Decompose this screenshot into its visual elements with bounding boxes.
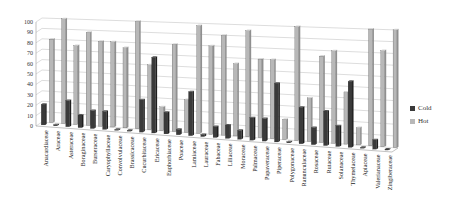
bar-hot [356, 127, 360, 144]
x-category-label: Anacardiaceae [42, 130, 49, 167]
bar-cold [41, 104, 45, 125]
bar-cold [373, 140, 377, 149]
bar-hot [221, 35, 225, 135]
x-category-label: Papaveraceae [263, 146, 270, 180]
x-category-label: Palmaceae [251, 145, 258, 172]
bar-chart: 0102030405060708090100AnacardiaceaeArace… [0, 0, 454, 217]
bar-hot [332, 51, 336, 143]
gridline [36, 18, 398, 30]
x-category-label: Brassicaceae [128, 136, 135, 168]
bar-cold [238, 130, 242, 139]
bar-hot [62, 19, 66, 124]
x-category-label: Piperaceae [275, 147, 282, 174]
bar-cold [250, 118, 254, 140]
bar-cold [213, 126, 217, 137]
x-category-label: Caryophyllaceae [104, 134, 111, 176]
y-tick-label: 60 [27, 61, 33, 67]
bar-cold [262, 119, 266, 142]
y-tick-label: 50 [27, 71, 33, 77]
bar-hot [381, 51, 385, 147]
bar-cold [189, 92, 193, 136]
bar-cold [176, 129, 180, 134]
bar-hot [393, 30, 397, 148]
bar-cold [78, 115, 82, 128]
bar-hot [246, 30, 250, 136]
y-tick-label: 80 [27, 40, 33, 46]
bar-cold [164, 112, 168, 134]
y-tick-label: 40 [27, 81, 33, 87]
bar-cold [53, 125, 57, 126]
x-category-label: Araceae [54, 131, 61, 152]
x-category-label: Euphorbiaceae [165, 139, 172, 176]
x-category-label: Solanaceae [337, 151, 344, 179]
bar-cold [115, 129, 119, 130]
bar-cold [274, 83, 278, 142]
bar-cold [66, 101, 70, 127]
bar-cold [152, 57, 156, 133]
x-category-label: Valerianaceae [374, 154, 381, 189]
bar-cold [127, 130, 131, 131]
x-category-label: Liliaceae [226, 143, 233, 166]
legend-swatch-hot [410, 119, 415, 124]
bar-hot [295, 27, 299, 141]
x-category-label: Moraceae [239, 144, 246, 169]
x-category-label: Lamiaceae [190, 141, 197, 168]
legend-label-hot: Hot [418, 117, 429, 125]
bar-hot [172, 44, 176, 131]
x-category-label: Lauraceae [202, 142, 209, 168]
x-category-label: Poaceae [177, 140, 184, 161]
x-category-label: Ranunculaceae [300, 149, 307, 187]
bar-hot [123, 48, 127, 128]
x-category-label: Burseraceae [91, 134, 98, 164]
bar-cold [336, 126, 340, 147]
bar-hot [209, 46, 213, 134]
x-category-label: Rosaceae [312, 150, 319, 174]
bar-hot [111, 42, 115, 127]
bar-hot [148, 65, 152, 130]
bar-hot [344, 92, 348, 144]
bar-hot [319, 56, 323, 142]
bar-hot [307, 98, 311, 141]
bar-hot [86, 32, 90, 125]
y-tick-label: 10 [27, 113, 33, 119]
y-tick-label: 20 [27, 102, 33, 108]
legend-item-cold: Cold [410, 104, 432, 112]
x-category-label: Zingiberaceae [386, 155, 393, 190]
bar-cold [324, 111, 328, 146]
x-category-label: Rutaceae [325, 151, 332, 174]
bar-hot [184, 100, 188, 133]
bar-hot [49, 39, 53, 122]
bar-cold [360, 147, 364, 148]
bar-cold [348, 81, 352, 147]
bar-cold [225, 125, 229, 138]
bar-hot [197, 25, 201, 133]
bar-cold [103, 111, 107, 129]
bar-hot [98, 41, 102, 126]
x-category-label: Boraginaceae [79, 133, 86, 167]
x-category-label: Polygonaceae [288, 148, 295, 183]
x-category-label: Apiaceae [361, 153, 368, 176]
x-category-label: Fabaceae [214, 142, 221, 165]
legend: Cold Hot [410, 104, 432, 130]
bar-cold [299, 107, 303, 144]
y-tick-label: 0 [30, 123, 33, 129]
bar-cold [311, 127, 315, 144]
y-tick-label: 90 [27, 29, 33, 35]
bar-cold [201, 134, 205, 136]
y-tick-label: 70 [27, 50, 33, 56]
legend-swatch-cold [410, 106, 415, 111]
legend-label-cold: Cold [418, 104, 432, 112]
bar-hot [74, 45, 78, 124]
x-category-label: Asteraceae [67, 132, 74, 159]
bar-hot [135, 21, 139, 129]
legend-item-hot: Hot [410, 117, 432, 125]
bar-hot [369, 29, 373, 146]
x-category-label: Convolvulaceae [116, 135, 123, 175]
bar-cold [90, 111, 94, 129]
bar-hot [160, 107, 164, 131]
bar-hot [270, 60, 274, 139]
x-category-label: Thymelaceae [349, 152, 356, 185]
y-tick-label: 30 [27, 92, 33, 98]
bar-hot [258, 59, 262, 138]
x-category-label: Cucurbitaceae [140, 137, 147, 173]
